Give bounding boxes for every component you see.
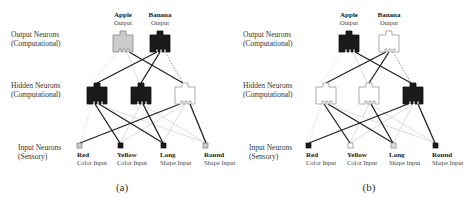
input-long-label: Long — [160, 151, 176, 159]
hidden-neuron-3 — [175, 83, 195, 104]
input-long-sublabel: Shape Input — [160, 159, 191, 166]
output-banana-label-b: Banana — [378, 11, 401, 19]
output-neuron-banana — [150, 31, 170, 52]
input-round-label-b: Round — [432, 151, 452, 159]
input-long-sublabel-b: Shape Input — [389, 159, 420, 166]
input-red-sublabel: Color Input — [77, 159, 107, 166]
input-neuron-yellow-b — [348, 143, 353, 148]
hidden-neuron-3-b — [403, 83, 423, 104]
output-layer-sublabel: (Computational) — [11, 39, 61, 48]
output-banana-sublabel-b: Output — [380, 19, 398, 26]
input-yellow-sublabel-b: Color Input — [347, 159, 377, 166]
output-layer-label-b: Output Neurons — [243, 30, 291, 39]
input-yellow-label-b: Yellow — [347, 151, 368, 159]
input-layer-label-b: Input Neurons — [249, 143, 292, 152]
input-round-sublabel: Shape Input — [204, 159, 235, 166]
output-banana-label: Banana — [149, 11, 172, 19]
input-neuron-long — [161, 143, 166, 148]
input-layer-sublabel: (Sensory) — [18, 152, 48, 161]
panel-b-caption: (b) — [363, 181, 376, 194]
hidden-layer-sublabel: (Computational) — [11, 90, 61, 99]
input-round-label: Round — [204, 151, 224, 159]
hidden-neuron-2-b — [359, 83, 379, 104]
output-apple-label-b: Apple — [340, 11, 358, 19]
panel-a: Output Neurons (Computational) Hidden Ne… — [11, 11, 235, 194]
output-neuron-apple-b — [339, 31, 359, 52]
input-neuron-red-b — [306, 143, 311, 148]
hidden-layer-sublabel-b: (Computational) — [243, 90, 293, 99]
input-neuron-yellow — [118, 143, 123, 148]
output-neuron-banana-b — [379, 31, 399, 52]
output-apple-sublabel: Output — [114, 19, 132, 26]
output-layer-label: Output Neurons — [11, 30, 59, 39]
hidden-neuron-1-b — [316, 83, 336, 104]
input-red-sublabel-b: Color Input — [306, 159, 336, 166]
panel-a-caption: (a) — [116, 181, 129, 194]
input-long-label-b: Long — [389, 151, 405, 159]
input-yellow-sublabel: Color Input — [117, 159, 147, 166]
input-round-sublabel-b: Shape Input — [432, 159, 463, 166]
neural-network-figure: Output Neurons (Computational) Hidden Ne… — [0, 0, 474, 206]
hidden-neuron-1 — [87, 83, 107, 104]
hidden-layer-label-b: Hidden Neurons — [243, 81, 292, 90]
hidden-neuron-2 — [131, 83, 151, 104]
input-neuron-long-b — [391, 143, 396, 148]
panel-b: Output Neurons (Computational) Hidden Ne… — [243, 11, 463, 194]
input-red-label: Red — [77, 151, 89, 159]
output-layer-sublabel-b: (Computational) — [243, 39, 293, 48]
output-banana-sublabel: Output — [151, 19, 169, 26]
output-apple-label: Apple — [114, 11, 132, 19]
input-yellow-label: Yellow — [117, 151, 138, 159]
input-neuron-round — [203, 143, 208, 148]
input-red-label-b: Red — [306, 151, 318, 159]
input-layer-label: Input Neurons — [18, 143, 61, 152]
hidden-layer-label: Hidden Neurons — [11, 81, 60, 90]
output-neuron-apple — [113, 31, 133, 52]
output-apple-sublabel-b: Output — [340, 19, 358, 26]
input-layer-sublabel-b: (Sensory) — [249, 152, 279, 161]
input-neuron-red — [77, 143, 82, 148]
input-neuron-round-b — [433, 143, 438, 148]
